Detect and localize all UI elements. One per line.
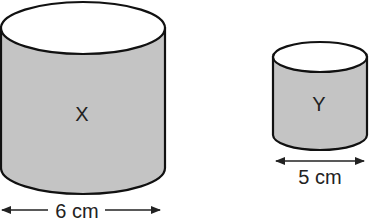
cylinder-x-dimension: 6 cm <box>2 200 160 221</box>
cylinder-x-label: X <box>75 103 88 125</box>
cylinder-y-top <box>273 42 367 72</box>
cylinder-y-diameter-label: 5 cm <box>298 166 341 188</box>
cylinder-y: Y <box>273 42 367 150</box>
cylinder-x: X <box>1 2 165 194</box>
cylinder-y-dimension: 5 cm <box>276 161 364 188</box>
cylinder-x-diameter-label: 6 cm <box>55 200 98 221</box>
cylinder-y-label: Y <box>312 93 325 115</box>
cylinders-diagram: X 6 cm Y 5 cm <box>0 0 373 221</box>
cylinder-x-top <box>1 2 165 54</box>
